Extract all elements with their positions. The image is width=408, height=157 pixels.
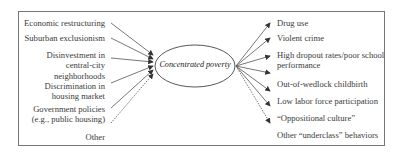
cause-discrimination: Discrimination in housing market [45, 81, 105, 102]
arrow-discrimination [111, 66, 153, 83]
effect-drug-use: Drug use [277, 18, 308, 28]
effect-violent-crime: Violent crime [277, 33, 324, 43]
arrow-violent [236, 38, 270, 66]
cause-suburban-exclusionism: Suburban exclusionism [25, 33, 105, 43]
arrow-other [111, 74, 153, 123]
effect-oppositional-culture: “Oppositional culture” [277, 113, 355, 123]
arrow-suburban [111, 38, 153, 59]
center-node-label: Concentrated poverty [155, 60, 235, 69]
effect-out-of-wedlock: Out-of-wedlock childbirth [277, 79, 367, 89]
cause-disinvestment: Disinvestment in central-city neighborho… [47, 50, 105, 81]
arrow-underclass [236, 66, 270, 123]
effect-high-dropout: High dropout rates/poor school performan… [277, 50, 384, 71]
effect-low-labor: Low labor force participation [277, 96, 378, 106]
arrow-economic [111, 23, 153, 55]
effect-underclass-behaviors: Other “underclass” behaviors [277, 130, 378, 140]
cause-economic-restructuring: Economic restructuring [24, 18, 105, 28]
arrow-disinvestment [111, 58, 153, 62]
cause-other: Other [85, 132, 105, 142]
arrow-government [111, 70, 153, 108]
arrow-drug [236, 23, 270, 66]
arrow-dropout [236, 56, 270, 66]
cause-government-policies: Government policies (e.g., public housin… [32, 104, 105, 125]
